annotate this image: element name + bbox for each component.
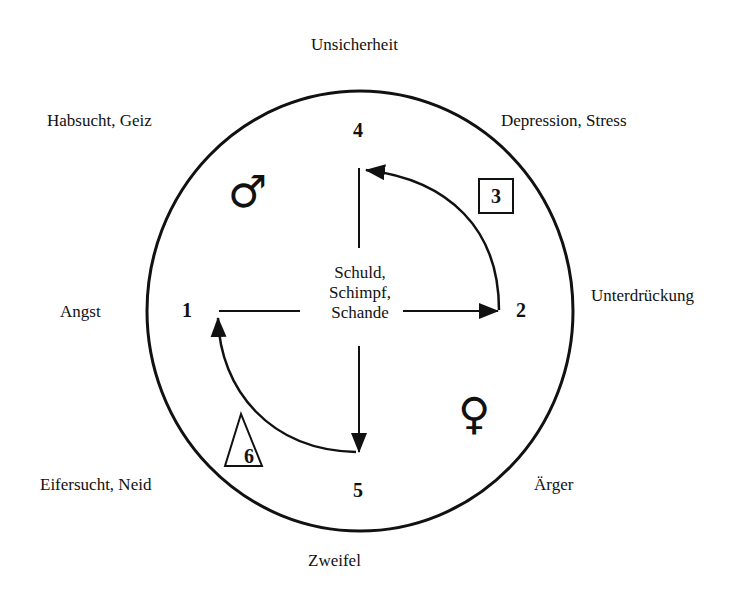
- node-4: 4: [353, 120, 363, 140]
- node-1: 1: [182, 300, 192, 320]
- male-symbol-icon: ♂: [228, 170, 267, 214]
- box-3: 3: [478, 178, 514, 214]
- label-bottom: Zweifel: [308, 552, 361, 569]
- node-2: 2: [516, 300, 526, 320]
- center-line-2: Schimpf,: [300, 283, 420, 303]
- label-right: Unterdrückung: [591, 287, 694, 304]
- label-top-left: Habsucht, Geiz: [47, 112, 152, 129]
- curve-arrow-5-to-1: [218, 318, 356, 452]
- center-text: Schuld, Schimpf, Schande: [300, 263, 420, 323]
- center-line-1: Schuld,: [300, 263, 420, 283]
- center-line-3: Schande: [300, 303, 420, 323]
- label-top-right: Depression, Stress: [501, 112, 627, 129]
- label-bottom-left: Eifersucht, Neid: [40, 476, 151, 493]
- triangle-6-label: 6: [244, 446, 254, 466]
- label-left: Angst: [60, 303, 101, 320]
- label-top: Unsicherheit: [311, 36, 398, 53]
- female-symbol-icon: ♀: [458, 392, 490, 436]
- label-bottom-right: Ärger: [534, 476, 573, 493]
- node-5: 5: [353, 480, 363, 500]
